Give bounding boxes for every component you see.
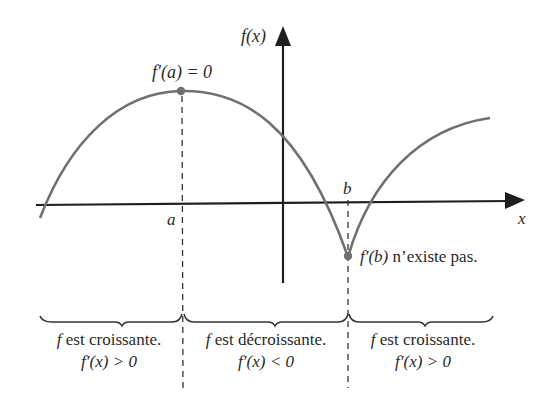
x-axis (36, 201, 510, 205)
curve-right (348, 118, 490, 257)
curve-left (40, 91, 348, 257)
cusp-annotation-fn: f′(b) (360, 247, 388, 266)
cusp-annotation-text: n’existe pas. (388, 247, 477, 266)
brace-right (349, 314, 493, 326)
y-axis-arrow-icon (275, 26, 291, 46)
region-increasing-right: f est croissante. f′(x) > 0 (350, 329, 496, 373)
max-annotation: f′(a) = 0 (152, 63, 212, 81)
maximum-point (177, 87, 185, 95)
cusp-point (344, 252, 352, 260)
point-b-label: b (343, 180, 352, 197)
point-a-label: a (167, 211, 176, 228)
cusp-annotation: f′(b) n’existe pas. (360, 248, 478, 265)
y-axis-label: f(x) (241, 27, 266, 45)
region-decreasing: f est décroissante. f′(x) < 0 (185, 329, 347, 373)
brace-middle (184, 314, 348, 326)
region-increasing-left: f est croissante. f′(x) > 0 (36, 329, 182, 373)
x-axis-arrow-icon (505, 192, 525, 209)
brace-left (40, 314, 182, 326)
x-axis-label: x (518, 210, 526, 227)
dashed-line-a (182, 96, 183, 388)
